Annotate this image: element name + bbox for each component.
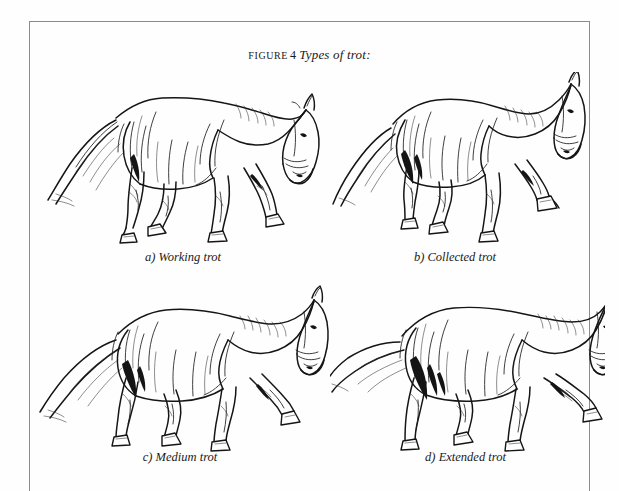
horse-illustration-working-trot [38, 72, 328, 244]
caption-working-trot: a) Working trot [38, 250, 328, 265]
panel-extended-trot [330, 280, 605, 452]
caption-collected-trot: b) Collected trot [320, 250, 590, 265]
figure-title: FIGURE4Types of trot: [0, 48, 619, 63]
horse-illustration-collected-trot [325, 72, 595, 244]
horse-illustration-medium-trot [34, 280, 334, 452]
panel-medium-trot [34, 280, 334, 452]
caption-extended-trot: d) Extended trot [328, 450, 603, 465]
figure-page: FIGURE4Types of trot: [0, 0, 619, 491]
figure-label-word: FIGURE [248, 50, 288, 61]
figure-number: 4 [290, 48, 296, 62]
panel-working-trot [38, 72, 328, 244]
figure-title-phrase: Types of trot: [299, 47, 370, 62]
caption-medium-trot: c) Medium trot [30, 450, 330, 465]
horse-illustration-extended-trot [330, 280, 605, 452]
panel-collected-trot [325, 72, 595, 244]
